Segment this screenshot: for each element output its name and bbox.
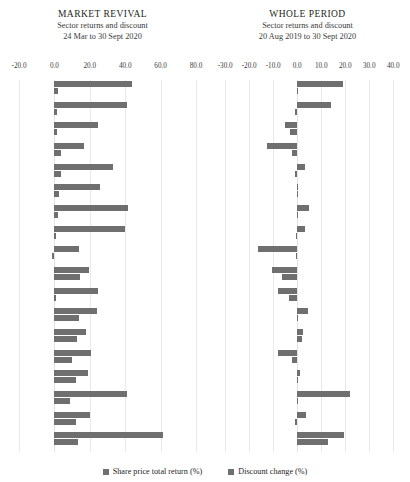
bar-group <box>0 370 205 389</box>
panel-title-right: WHOLE PERIOD <box>205 8 410 20</box>
bar-share-price-total-return <box>285 122 297 128</box>
bar-discount-change <box>54 171 60 177</box>
bar-share-price-total-return <box>297 370 300 376</box>
panel-header-left: MARKET REVIVAL Sector returns and discou… <box>0 8 205 42</box>
bar-group <box>205 288 410 307</box>
bar-share-price-total-return <box>297 329 303 335</box>
bar-discount-change <box>297 212 298 218</box>
bar-share-price-total-return <box>54 391 127 397</box>
bar-discount-change <box>297 439 328 445</box>
bar-share-price-total-return <box>297 432 344 438</box>
bar-share-price-total-return <box>267 143 297 149</box>
bar-share-price-total-return <box>54 164 113 170</box>
bar-discount-change <box>54 439 78 445</box>
bar-share-price-total-return <box>54 81 132 87</box>
bar-discount-change <box>54 150 61 156</box>
bar-share-price-total-return <box>297 391 350 397</box>
legend-label-share-price-total-return: Share price total return (%) <box>113 467 203 476</box>
bar-group <box>0 350 205 369</box>
bar-share-price-total-return <box>297 81 342 87</box>
bar-discount-change <box>54 233 56 239</box>
bar-discount-change <box>295 109 297 115</box>
bar-discount-change <box>282 274 297 280</box>
bar-group <box>205 267 410 286</box>
bar-discount-change <box>296 233 298 239</box>
panel-subtitle-left-line2: 24 Mar to 30 Sept 2020 <box>0 31 205 42</box>
bar-group <box>205 122 410 141</box>
bar-group <box>205 246 410 265</box>
bar-group <box>205 81 410 100</box>
bar-discount-change <box>295 419 297 425</box>
bar-discount-change <box>54 212 58 218</box>
bar-group <box>205 412 410 431</box>
bar-group <box>205 143 410 162</box>
bar-discount-change <box>297 398 298 404</box>
bar-share-price-total-return <box>54 122 98 128</box>
x-tick-label: 30.0 <box>363 62 376 70</box>
bar-share-price-total-return <box>297 164 305 170</box>
bar-discount-change <box>52 253 54 259</box>
bar-share-price-total-return <box>54 102 127 108</box>
legend-item-share-price-total-return: Share price total return (%) <box>103 467 203 476</box>
bar-share-price-total-return <box>54 412 90 418</box>
bar-group <box>205 102 410 121</box>
bar-group <box>0 205 205 224</box>
bar-group <box>205 391 410 410</box>
bar-share-price-total-return <box>278 288 297 294</box>
legend-label-discount-change: Discount change (%) <box>238 467 307 476</box>
legend-swatch-share-price-total-return <box>103 469 109 475</box>
x-tick-label: 40.0 <box>119 62 132 70</box>
x-tick-label: 60.0 <box>154 62 167 70</box>
bar-group <box>0 432 205 451</box>
bar-group <box>0 412 205 431</box>
bar-group <box>0 391 205 410</box>
bar-share-price-total-return <box>297 102 330 108</box>
bar-share-price-total-return <box>54 288 98 294</box>
bar-discount-change <box>297 336 302 342</box>
panel-subtitle-left-line1: Sector returns and discount <box>0 20 205 31</box>
bar-discount-change <box>54 129 56 135</box>
bar-discount-change <box>54 88 58 94</box>
bar-group <box>205 184 410 203</box>
panel-subtitle-right-line1: Sector returns and discount <box>205 20 410 31</box>
bar-group <box>205 164 410 183</box>
x-tick-label: 0.0 <box>293 62 302 70</box>
bar-discount-change <box>297 191 298 197</box>
bar-discount-change <box>54 377 76 383</box>
bar-discount-change <box>54 315 78 321</box>
legend-item-discount-change: Discount change (%) <box>228 467 307 476</box>
bar-group <box>0 267 205 286</box>
bar-group <box>0 143 205 162</box>
bar-group <box>0 226 205 245</box>
plot-area-left <box>0 80 205 452</box>
legend-swatch-discount-change <box>228 469 234 475</box>
panel-title-left: MARKET REVIVAL <box>0 8 205 20</box>
plot-area-right <box>205 80 410 452</box>
chart-legend: Share price total return (%) Discount ch… <box>0 467 410 476</box>
bar-share-price-total-return <box>297 205 309 211</box>
x-axis-right: -30.0-20.0-10.00.010.020.030.040.0 <box>205 62 410 74</box>
bar-share-price-total-return <box>54 329 86 335</box>
bar-discount-change <box>54 109 57 115</box>
bar-discount-change <box>295 171 297 177</box>
bar-group <box>0 81 205 100</box>
bar-discount-change <box>54 295 55 301</box>
bar-share-price-total-return <box>272 267 297 273</box>
bar-discount-change <box>292 150 297 156</box>
bar-discount-change <box>54 357 72 363</box>
bar-discount-change <box>296 253 297 259</box>
bar-group <box>205 350 410 369</box>
bar-share-price-total-return <box>297 184 298 190</box>
x-tick-label: -30.0 <box>218 62 233 70</box>
bar-share-price-total-return <box>54 432 163 438</box>
x-tick-label: -10.0 <box>266 62 281 70</box>
bar-discount-change <box>290 129 297 135</box>
bar-share-price-total-return <box>297 308 308 314</box>
bar-group <box>0 102 205 121</box>
x-tick-label: -20.0 <box>242 62 257 70</box>
bar-group <box>0 246 205 265</box>
bar-group <box>0 308 205 327</box>
bar-share-price-total-return <box>278 350 297 356</box>
x-tick-label: 40.0 <box>387 62 400 70</box>
bar-discount-change <box>54 191 59 197</box>
